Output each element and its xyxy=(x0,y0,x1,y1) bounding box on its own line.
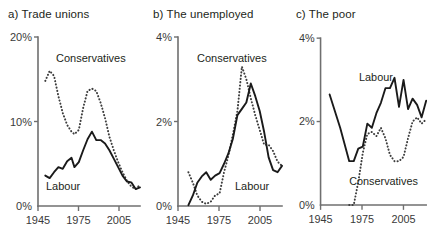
panel-b-plot: 4% 2% 0% 1945 1975 2005 Conservatives La… xyxy=(145,0,295,248)
panel-b-xlabel-1945: 1945 xyxy=(166,214,190,226)
panel-c-xlabel-2005: 2005 xyxy=(391,213,415,225)
panel-b-xlabel-2005: 2005 xyxy=(248,214,272,226)
panel-a-annotation-labour: Labour xyxy=(46,180,81,192)
panel-c-xlabel-1975: 1975 xyxy=(350,213,374,225)
panel-b-ylabel-2: 2% xyxy=(156,116,172,128)
panel-c-xlabel-1945: 1945 xyxy=(309,213,333,225)
panel-b-annotation-labour: Labour xyxy=(235,180,270,192)
panel-the-unemployed: b) The unemployed 4% 2% 0% 1945 1975 200… xyxy=(145,0,295,248)
panel-c-series-conservatives xyxy=(349,117,426,205)
panel-b-xlabel-1975: 1975 xyxy=(207,214,231,226)
panel-c-plot: 4% 2% 0% 1945 1975 2005 Labour Conservat… xyxy=(288,0,438,248)
panel-b-ylabel-0: 0% xyxy=(156,200,172,212)
panel-a-xlabel-1945: 1945 xyxy=(26,214,50,226)
panel-a-ylabel-20: 20% xyxy=(10,31,32,43)
panel-b-ylabel-4: 4% xyxy=(156,31,172,43)
panel-a-annotation-conservatives: Conservatives xyxy=(56,52,126,64)
panel-c-ylabel-0: 0% xyxy=(299,199,315,211)
panel-c-ylabel-2: 2% xyxy=(299,115,315,127)
panel-a-plot: 20% 10% 0% 1945 1975 2005 Conservatives … xyxy=(0,0,150,248)
panel-a-ylabel-10: 10% xyxy=(10,116,32,128)
panel-the-poor: c) The poor 4% 2% 0% 1945 1975 2005 Labo… xyxy=(288,0,440,248)
panel-a-series-conservatives xyxy=(45,71,140,189)
panel-c-ylabel-4: 4% xyxy=(299,32,315,44)
panel-a-xlabel-2005: 2005 xyxy=(107,214,131,226)
panel-a-ylabel-0: 0% xyxy=(16,200,32,212)
panel-c-annotation-labour: Labour xyxy=(359,71,393,83)
panel-c-series-labour xyxy=(330,78,427,161)
panel-a-xlabel-1975: 1975 xyxy=(66,214,90,226)
figure-three-panel-line-charts: a) Trade unions 20% 10% 0% 1945 1975 200… xyxy=(0,0,440,248)
panel-trade-unions: a) Trade unions 20% 10% 0% 1945 1975 200… xyxy=(0,0,150,248)
panel-b-annotation-conservatives: Conservatives xyxy=(197,52,267,64)
panel-c-annotation-conservatives: Conservatives xyxy=(349,175,418,187)
